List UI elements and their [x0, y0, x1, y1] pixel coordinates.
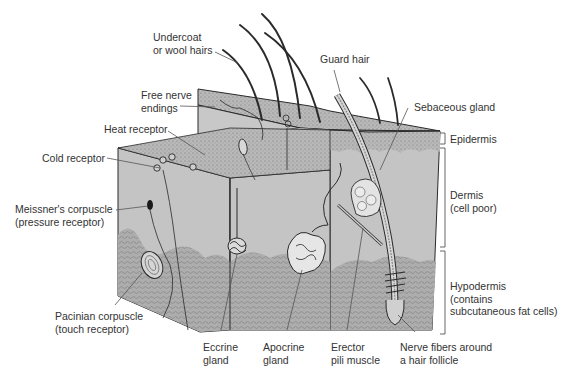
label-apocrine-gland: Apocrine gland [263, 341, 304, 366]
label-epidermis: Epidermis [450, 133, 497, 146]
label-sebaceous-gland: Sebaceous gland [414, 101, 495, 114]
layer-brackets [440, 133, 445, 334]
label-free-nerve-endings: Free nerve endings [141, 89, 192, 114]
label-eccrine-gland: Eccrine gland [203, 341, 238, 366]
label-hypodermis: Hypodermis (contains subcutaneous fat ce… [450, 280, 557, 318]
label-undercoat-hairs: Undercoat or wool hairs [153, 31, 213, 56]
label-pacinian-corpuscle: Pacinian corpuscle (touch receptor) [55, 310, 143, 335]
label-guard-hair: Guard hair [320, 53, 370, 66]
label-meissners-corpuscle: Meissner's corpuscle (pressure receptor) [15, 203, 113, 228]
sebaceous-gland [351, 179, 381, 217]
label-heat-receptor: Heat receptor [104, 123, 168, 136]
label-dermis: Dermis (cell poor) [450, 189, 497, 214]
label-nerve-fibers: Nerve fibers around a hair follicle [400, 341, 492, 366]
label-erector-pili-muscle: Erector pili muscle [331, 341, 380, 366]
label-cold-receptor: Cold receptor [42, 152, 105, 165]
